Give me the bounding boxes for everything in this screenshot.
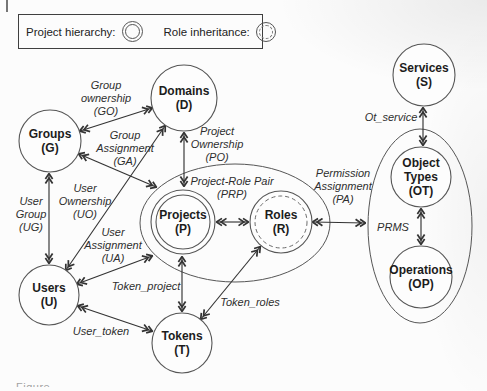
edge-label-group-ownership-label: Groupownership(GO) xyxy=(81,79,131,117)
edge-label-prms-label: PRMS xyxy=(377,221,409,233)
edge-label-project-role-pair-label: Project-Role Pair(PRP) xyxy=(190,175,274,200)
edge-label-user-token-label: User_token xyxy=(73,325,129,337)
role-inheritance-icon xyxy=(256,22,276,42)
role-inheritance-icon-inner xyxy=(259,25,273,39)
edge-token-roles xyxy=(201,247,260,319)
edge-label-ot-service-label: Ot_service xyxy=(365,111,418,123)
legend-role-inheritance-label: Role inheritance: xyxy=(163,26,249,38)
project-hierarchy-icon xyxy=(122,21,143,42)
edge-label-token-project-label: Token_project xyxy=(112,280,182,292)
edge-label-token-roles-label: Token_roles xyxy=(220,296,280,308)
project-hierarchy-icon-inner xyxy=(125,24,140,39)
edge-label-user-group-label: UserGroup(UG) xyxy=(16,195,47,233)
edge-permission-assignment xyxy=(313,222,365,223)
figure-canvas: Groups(G)Domains(D)Users(U)Tokens(T)Proj… xyxy=(0,0,487,391)
caption-partial: Figure xyxy=(16,380,316,387)
edge-label-project-ownership-label: ProjectOwnership(PO) xyxy=(191,125,244,163)
legend-project-hierarchy-label: Project hierarchy: xyxy=(26,26,115,38)
diagram-svg: Groups(G)Domains(D)Users(U)Tokens(T)Proj… xyxy=(0,0,487,391)
edge-label-group-assignment-label: GroupAssignment(GA) xyxy=(95,129,154,167)
legend-box: Project hierarchy: Role inheritance: xyxy=(18,14,263,49)
page-edge-mark xyxy=(6,0,8,12)
edge-label-user-ownership-label: UserOwnership(UO) xyxy=(59,182,112,220)
